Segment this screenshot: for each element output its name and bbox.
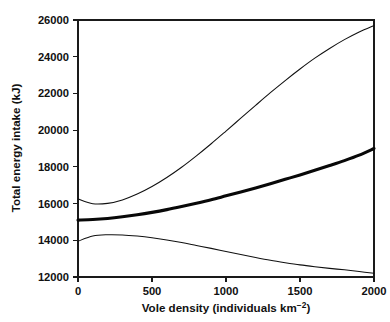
x-axis-title-main: Vole density (individuals km — [142, 301, 297, 314]
y-tick-label: 24000 — [38, 51, 69, 63]
y-tick-label: 26000 — [38, 14, 69, 26]
x-axis-title: Vole density (individuals km−2) — [142, 300, 311, 314]
y-tick-label: 12000 — [38, 271, 69, 283]
x-tick-label: 1500 — [288, 285, 313, 297]
x-tick-label: 0 — [75, 285, 81, 297]
energy-intake-line-chart: 1200014000160001800020000220002400026000… — [0, 0, 390, 322]
y-tick-label: 22000 — [38, 87, 69, 99]
y-axis-title: Total energy intake (kJ) — [9, 84, 22, 213]
y-tick-label: 20000 — [38, 124, 69, 136]
x-tick-label: 2000 — [362, 285, 387, 297]
y-tick-label: 16000 — [38, 198, 69, 210]
x-tick-label: 1000 — [214, 285, 239, 297]
x-axis-title-close: ) — [306, 301, 310, 314]
x-axis-title-superscript: −2 — [297, 300, 307, 310]
y-tick-label: 18000 — [38, 161, 69, 173]
x-tick-label: 500 — [143, 285, 162, 297]
y-tick-label: 14000 — [38, 234, 69, 246]
